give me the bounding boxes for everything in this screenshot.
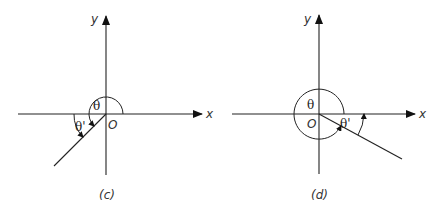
theta-prime-label: θ' — [340, 117, 351, 131]
y-label: y — [90, 12, 99, 26]
caption-d: (d) — [311, 188, 328, 202]
caption-c: (c) — [99, 188, 115, 202]
origin-label: O — [307, 117, 316, 131]
origin-label: O — [108, 118, 117, 132]
theta-prime-label: θ' — [75, 120, 86, 134]
y-label: y — [303, 12, 312, 26]
panel-c: y x O θ θ' (c) — [18, 12, 214, 202]
theta-label: θ — [93, 99, 100, 113]
diagram-canvas: y x O θ θ' (c) y x O θ θ' (d) — [0, 0, 444, 209]
theta-prime-arc — [358, 114, 364, 135]
x-label: x — [205, 107, 214, 121]
x-label: x — [418, 107, 427, 121]
panel-d: y x O θ θ' (d) — [232, 12, 427, 202]
theta-label: θ — [307, 98, 314, 112]
